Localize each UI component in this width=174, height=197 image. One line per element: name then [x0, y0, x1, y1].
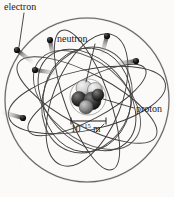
- scale-label: 10−15 m: [71, 124, 100, 135]
- electron-particle: [133, 58, 139, 64]
- nucleon-proton: [92, 89, 104, 101]
- nucleon-neutron: [79, 100, 93, 114]
- proton-label: proton: [136, 103, 162, 114]
- atom-diagram-canvas: [0, 0, 174, 197]
- scale-exponent: −15: [81, 122, 91, 129]
- scale-mantissa: 10: [71, 124, 81, 134]
- atom-diagram-figure: electron neutron proton 10−15 m: [0, 0, 174, 197]
- electron-particle: [32, 67, 38, 73]
- electron-particle: [104, 33, 110, 39]
- leader-proton: [103, 99, 134, 108]
- leader-electron: [19, 13, 24, 47]
- electron-particle: [20, 115, 26, 121]
- neutron-label: neutron: [57, 33, 88, 44]
- nucleus: [70, 79, 106, 115]
- electron-particle: [14, 47, 20, 53]
- electron-label: electron: [4, 1, 36, 12]
- scale-unit: m: [93, 124, 100, 134]
- electron-particle: [47, 37, 53, 43]
